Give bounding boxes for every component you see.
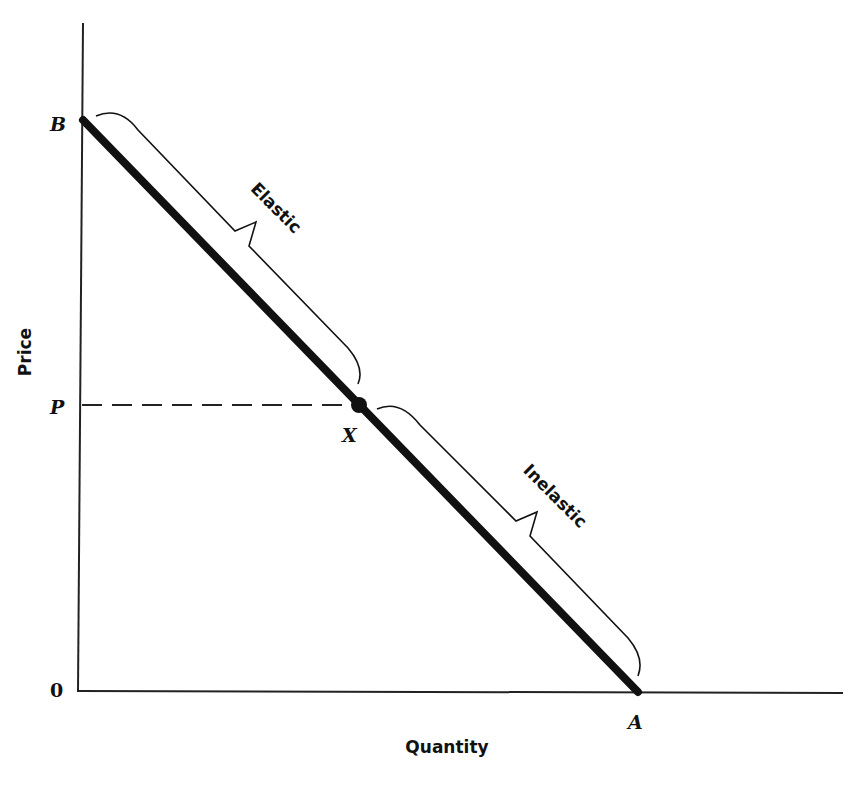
label-x: X — [341, 424, 358, 446]
origin-label: 0 — [50, 679, 63, 701]
inelastic-label: Inelastic — [519, 460, 591, 532]
x-axis — [78, 691, 843, 693]
midpoint-marker-x — [351, 397, 367, 413]
label-p: P — [49, 396, 65, 418]
y-axis-title: Price — [15, 328, 35, 376]
elastic-brace — [96, 113, 360, 384]
x-axis-title: Quantity — [405, 737, 488, 757]
inelastic-brace — [377, 406, 640, 676]
elastic-label: Elastic — [247, 178, 306, 237]
elasticity-diagram: B P 0 A X Price Quantity Elastic Inelast… — [0, 0, 859, 791]
label-b: B — [49, 113, 66, 135]
label-a: A — [626, 711, 643, 733]
